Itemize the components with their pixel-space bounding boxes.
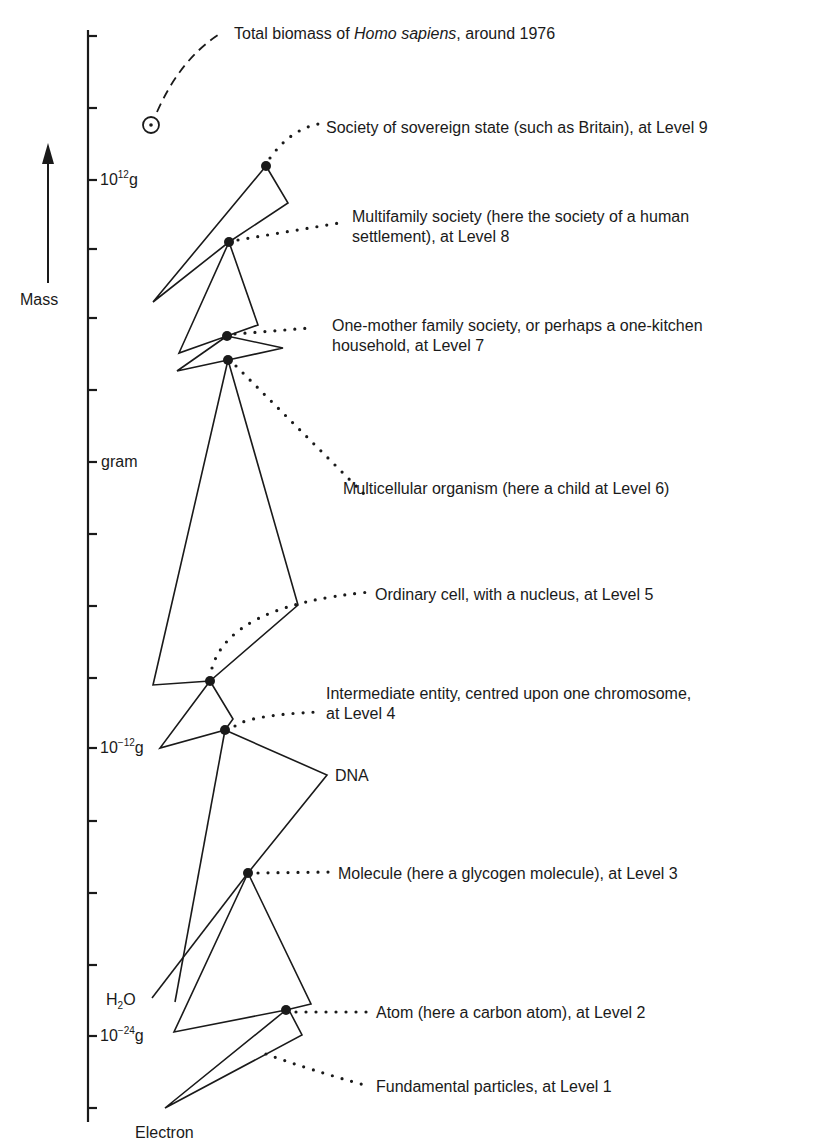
- node-level-8: [224, 237, 234, 247]
- axis-title-mass: Mass: [20, 291, 58, 309]
- hierarchy-zigzag: [152, 166, 327, 1108]
- node-level-9: [261, 161, 271, 171]
- annotation-level-1: Fundamental particles, at Level 1: [376, 1077, 612, 1097]
- tick-label-1e12g: 1012g: [100, 171, 138, 189]
- annotation-level-8: Multifamily society (here the society of…: [352, 207, 689, 247]
- biomass-marker-icon: [143, 35, 218, 133]
- annotation-level-3: Molecule (here a glycogen molecule), at …: [338, 864, 678, 884]
- annotation-level-2: Atom (here a carbon atom), at Level 2: [376, 1003, 645, 1023]
- label-dna: DNA: [335, 767, 369, 785]
- annotation-level-6: Multicellular organism (here a child at …: [343, 479, 669, 499]
- node-level-4: [220, 725, 230, 735]
- mass-axis: [88, 30, 97, 1122]
- level-nodes: [205, 161, 291, 1015]
- tick-label-gram: gram: [101, 453, 137, 471]
- annotation-level-5: Ordinary cell, with a nucleus, at Level …: [375, 585, 653, 605]
- tick-label-1e-24g: 10−24g: [100, 1027, 144, 1045]
- tick-label-1e-12g: 10−12g: [100, 739, 144, 757]
- annotation-level-4: Intermediate entity, centred upon one ch…: [326, 684, 691, 724]
- node-level-6: [223, 355, 233, 365]
- node-level-7: [222, 331, 232, 341]
- node-level-5: [205, 676, 215, 686]
- leader-lines: [212, 124, 370, 1086]
- annotation-level-7: One-mother family society, or perhaps a …: [332, 316, 703, 356]
- label-h2o: H2O: [106, 991, 136, 1009]
- mass-arrow-icon: [42, 143, 54, 283]
- node-level-3: [243, 868, 253, 878]
- annotation-level-9: Society of sovereign state (such as Brit…: [326, 118, 708, 138]
- annotation-biomass: Total biomass of Homo sapiens, around 19…: [234, 24, 555, 44]
- node-level-2: [281, 1005, 291, 1015]
- label-electron: Electron: [135, 1124, 194, 1142]
